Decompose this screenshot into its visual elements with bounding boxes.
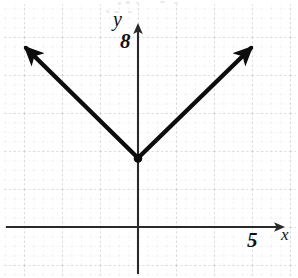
x-axis-label: x bbox=[281, 226, 289, 243]
graph-figure: y x 8 5 bbox=[0, 0, 298, 278]
x-axis-tick-label: 5 bbox=[247, 230, 258, 251]
y-axis-tick-label: 8 bbox=[120, 31, 131, 52]
vertex-point bbox=[134, 154, 143, 163]
y-axis-label: y bbox=[113, 9, 122, 29]
